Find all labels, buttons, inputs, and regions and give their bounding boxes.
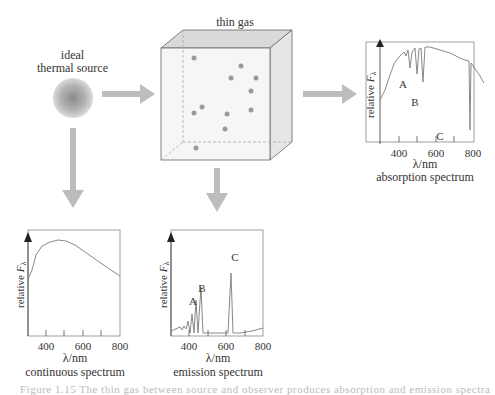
figure-caption: Figure 1.15 The thin gas between source …	[20, 383, 490, 395]
emission-line-A: A	[189, 295, 197, 307]
diagram-canvas: A B C relative Fλ 400 600 800 relative F…	[0, 0, 495, 395]
continuous-title: continuous spectrum	[15, 366, 135, 379]
emission-chart: A B C relative Fλ 400 600 800	[157, 230, 272, 352]
svg-text:800: 800	[465, 147, 482, 159]
arrow-right-to-absorption	[303, 84, 357, 104]
emission-line-C: C	[231, 251, 238, 263]
svg-text:800: 800	[255, 340, 272, 352]
continuous-xlabel: λ/nm	[45, 352, 105, 365]
absorption-chart: A B C relative Fλ 400 600 800	[364, 39, 484, 159]
emission-xlabel: λ/nm	[188, 352, 248, 365]
emission-ylabel: relative Fλ	[157, 262, 171, 308]
arrow-down-to-continuous	[62, 128, 84, 208]
emission-line-B: B	[198, 282, 205, 294]
absorption-line-A: A	[399, 78, 407, 90]
svg-text:800: 800	[112, 340, 129, 352]
arrow-down-to-emission	[206, 168, 228, 212]
absorption-line-B: B	[411, 96, 418, 108]
continuous-chart: relative Fλ 400 600 800	[14, 230, 129, 352]
arrow-right-to-gas	[102, 84, 155, 104]
emission-title: emission spectrum	[158, 366, 278, 379]
absorption-line-C: C	[436, 130, 443, 142]
svg-text:400: 400	[181, 340, 198, 352]
continuous-ylabel: relative Fλ	[14, 262, 28, 308]
absorption-title: absorption spectrum	[365, 171, 485, 184]
svg-text:400: 400	[38, 340, 55, 352]
absorption-ylabel: relative Fλ	[364, 72, 378, 118]
thin-gas-box	[161, 30, 292, 160]
